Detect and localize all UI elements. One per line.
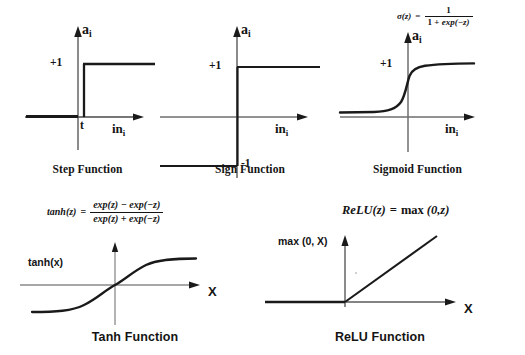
relu-formula-lhs: ReLU(z) (342, 204, 386, 217)
sign-x-axis-label: ini (275, 121, 288, 138)
panel-step-function: ai ini +1 t Step Function (0, 0, 175, 190)
relu-scan-speck (355, 272, 357, 274)
tanh-formula: tanh(z) = exp(z) − exp(−z) exp(z) + exp(… (47, 200, 163, 224)
step-y-axis-arrow (74, 26, 82, 37)
relu-y-axis-arrow (341, 235, 348, 246)
relu-formula-max: max (401, 204, 424, 217)
panel-tanh-function: tanh(x) X tanh(z) = exp(z) − exp(−z) exp… (20, 195, 270, 355)
relu-x-axis-arrow (445, 298, 456, 305)
tanh-den-exp2: exp (129, 213, 143, 224)
sigmoid-formula-denominator: 1 + exp(−z) (425, 16, 473, 27)
sign-x-axis-arrow (297, 113, 308, 120)
sigmoid-x-axis-arrow (464, 113, 475, 120)
relu-formula-equals: = (386, 204, 401, 217)
relu-curve-ramp (345, 236, 437, 302)
tanh-formula-numerator: exp(z) − exp(−z) (90, 200, 163, 212)
caption-tanh-function: Tanh Function (55, 330, 215, 344)
relu-curve-label: max (0, X) (278, 235, 328, 247)
sigmoid-den-arg: (−z) (455, 17, 470, 27)
sigmoid-x-axis-label: ini (445, 121, 458, 138)
panel-relu-function: max (0, X) X ReLU(z) = max (0,z) ReLU Fu… (265, 195, 525, 355)
sigmoid-curve (340, 63, 474, 112)
relu-x-axis-label: X (464, 301, 473, 316)
tanh-formula-denominator: exp(z) + exp(−z) (90, 212, 163, 225)
step-x-axis-arrow (133, 113, 144, 120)
sigmoid-den-exp: exp (442, 17, 455, 27)
sigmoid-formula: σ(z) = 1 1 + exp(−z) (397, 6, 473, 28)
tanh-den-arg2: (−z) (144, 213, 161, 224)
tanh-curve-label: tanh(x) (28, 256, 63, 268)
panel-sign-function: ai ini +1 -1 Sign Function (160, 0, 340, 190)
caption-step-function: Step Function (0, 163, 175, 175)
sigmoid-formula-equals: = (411, 12, 424, 21)
sigmoid-formula-lhs: σ(z) (397, 12, 411, 21)
tanh-formula-fraction: exp(z) − exp(−z) exp(z) + exp(−z) (90, 200, 163, 224)
caption-relu-function: ReLU Function (285, 330, 475, 344)
sigmoid-y-axis-label: ai (412, 28, 422, 45)
caption-sign-function: Sign Function (160, 163, 340, 175)
step-y-axis-label: ai (82, 22, 92, 39)
panel-sigmoid-function: ai ini +1 σ(z) = 1 1 + exp(−z) Sigmoid F… (330, 0, 525, 190)
caption-sigmoid-function: Sigmoid Function (330, 163, 505, 175)
tanh-formula-lhs: tanh(z) (47, 207, 76, 218)
activation-functions-figure: ai ini +1 t Step Function ai ini +1 -1 S… (0, 0, 525, 355)
sigmoid-function-plot (330, 0, 525, 190)
sigmoid-ytick-plus-one: +1 (380, 57, 392, 69)
tanh-x-axis-label: X (208, 284, 217, 299)
sigmoid-formula-numerator: 1 (443, 6, 454, 16)
tanh-formula-equals: = (76, 207, 90, 218)
sign-y-axis-arrow (233, 26, 241, 37)
sigmoid-den-one-plus: 1 + (428, 17, 442, 27)
sign-ytick-plus-one: +1 (209, 59, 221, 71)
relu-formula: ReLU(z) = max (0,z) (342, 204, 449, 217)
tanh-den-exp1: exp (93, 213, 107, 224)
tanh-den-arg1: (z) + (108, 213, 129, 224)
step-x-axis-label: ini (112, 121, 125, 138)
tanh-x-axis-arrow (189, 282, 200, 289)
relu-formula-args: (0,z) (424, 204, 450, 217)
sigmoid-formula-fraction: 1 1 + exp(−z) (425, 6, 473, 28)
tanh-y-axis-arrow (112, 242, 118, 252)
sigmoid-y-axis-arrow (404, 32, 412, 43)
tanh-num-exp2: exp (129, 199, 143, 210)
tanh-num-arg1: (z) − (108, 199, 130, 210)
step-ytick-plus-one: +1 (50, 56, 62, 68)
step-xtick-threshold: t (80, 119, 84, 131)
tanh-num-exp1: exp (93, 199, 107, 210)
tanh-num-arg2: (−z) (144, 199, 161, 210)
sign-y-axis-label: ai (241, 22, 251, 39)
